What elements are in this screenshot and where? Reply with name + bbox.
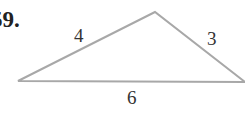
side-label-right: 3	[207, 29, 217, 48]
triangle-figure	[0, 0, 245, 118]
side-label-left: 4	[74, 26, 84, 45]
side-label-base: 6	[127, 88, 137, 107]
diagram: 59. 4 3 6	[0, 0, 245, 118]
